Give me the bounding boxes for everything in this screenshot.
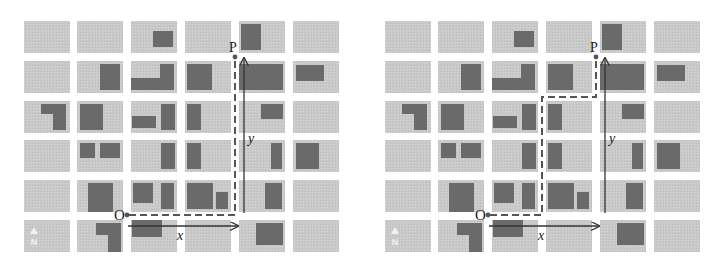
building: [187, 183, 213, 209]
city-block: [385, 220, 431, 252]
city-block: [546, 21, 592, 53]
compass-label: N: [392, 237, 399, 247]
building: [521, 64, 535, 90]
building: [626, 183, 643, 209]
building: [271, 143, 282, 169]
origin-label: O: [475, 207, 486, 223]
building: [133, 183, 153, 203]
buildings: [402, 24, 685, 252]
building: [100, 64, 120, 90]
building: [494, 183, 514, 203]
building: [187, 64, 212, 90]
target-label: P: [229, 40, 237, 55]
building: [414, 104, 427, 130]
building: [265, 183, 282, 209]
building: [187, 143, 201, 169]
building: [632, 143, 643, 169]
building: [100, 143, 120, 158]
city-block: [293, 180, 339, 212]
y-axis-label: y: [607, 131, 616, 146]
building: [241, 24, 261, 50]
building: [577, 192, 589, 209]
city-block: [293, 21, 339, 53]
building: [548, 64, 573, 90]
y-axis-label: y: [246, 131, 255, 146]
building: [161, 143, 175, 169]
building: [108, 223, 121, 252]
city-block: [293, 220, 339, 252]
building: [80, 104, 103, 130]
building: [617, 223, 644, 245]
building: [261, 104, 283, 119]
city-block: [24, 220, 70, 252]
building: [548, 143, 562, 169]
building: [161, 183, 174, 209]
city-blocks: [385, 21, 700, 252]
building: [493, 220, 523, 237]
building: [657, 65, 685, 81]
building: [88, 183, 113, 212]
city-block: [77, 21, 123, 53]
building: [461, 143, 481, 158]
building: [441, 104, 464, 130]
building: [449, 183, 474, 212]
city-block: [385, 61, 431, 93]
panel-left-direct-route: NOPxy: [0, 0, 360, 270]
building: [216, 192, 228, 209]
building: [622, 104, 644, 119]
target-point: [594, 55, 599, 60]
building: [153, 31, 173, 47]
target-label: P: [590, 40, 598, 55]
building: [161, 104, 175, 130]
city-block: [24, 21, 70, 53]
building: [602, 24, 622, 50]
x-axis-label: x: [176, 228, 184, 243]
building: [53, 104, 66, 130]
origin-point: [125, 213, 130, 218]
x-axis-label: x: [537, 228, 545, 243]
building: [548, 104, 562, 130]
origin-point: [486, 213, 491, 218]
city-grid-map-right: NOPxy: [361, 0, 719, 270]
building: [132, 116, 156, 128]
building: [514, 31, 534, 47]
building: [522, 143, 536, 169]
building: [239, 64, 283, 90]
building: [296, 143, 319, 169]
building: [469, 223, 482, 252]
origin-label: O: [114, 207, 125, 223]
city-block: [438, 21, 484, 53]
buildings: [41, 24, 324, 252]
panel-right-alternate-route: NOPxy: [361, 0, 719, 270]
city-block: [385, 140, 431, 172]
building: [548, 183, 574, 209]
city-block: [385, 21, 431, 53]
city-grid-map-left: NOPxy: [0, 0, 360, 270]
building: [600, 64, 644, 90]
city-block: [24, 61, 70, 93]
building: [522, 183, 535, 209]
city-block: [654, 101, 700, 133]
city-block: [24, 140, 70, 172]
building: [187, 104, 201, 130]
building: [296, 65, 324, 81]
building: [657, 143, 680, 169]
city-block: [654, 180, 700, 212]
city-block: [185, 220, 231, 252]
city-block: [185, 21, 231, 53]
building: [493, 116, 517, 128]
compass-label: N: [31, 237, 38, 247]
building: [160, 64, 174, 90]
building: [441, 143, 456, 158]
target-point: [233, 55, 238, 60]
building: [132, 220, 162, 237]
city-blocks: [24, 21, 339, 252]
city-block: [546, 220, 592, 252]
city-block: [24, 180, 70, 212]
city-block: [654, 220, 700, 252]
city-block: [654, 21, 700, 53]
building: [461, 64, 481, 90]
city-block: [385, 180, 431, 212]
city-block: [293, 101, 339, 133]
building: [522, 104, 536, 130]
